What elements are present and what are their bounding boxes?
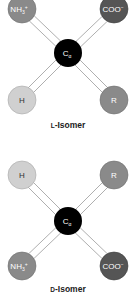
atom-bottom-right: R	[100, 86, 128, 114]
atom-top-right: R	[100, 161, 128, 189]
atom-label: H	[19, 96, 25, 105]
atom-bottom-left: NH3+	[8, 252, 36, 280]
alpha-carbon: Cα	[54, 207, 82, 235]
atom-top-left: H	[8, 161, 36, 189]
atom-label: H	[19, 171, 25, 180]
l-isomer-diagram: NH3+ COO− H R Cα L-Isomer	[8, 0, 128, 130]
d-isomer-diagram: H R NH3+ COO− Cα D-Isomer	[8, 161, 128, 294]
isomer-title: L-Isomer	[51, 120, 86, 130]
atom-bottom-right: COO−	[100, 252, 128, 280]
alpha-carbon: Cα	[54, 39, 82, 67]
atom-bottom-left: H	[8, 86, 36, 114]
atom-label: COO−	[102, 4, 123, 14]
atom-label: COO−	[102, 261, 123, 271]
isomer-title: D-Isomer	[50, 284, 86, 294]
atom-label: R	[111, 171, 117, 180]
atom-label: R	[111, 96, 117, 105]
isomer-figure: NH3+ COO− H R Cα L-Isomer H	[0, 0, 137, 294]
